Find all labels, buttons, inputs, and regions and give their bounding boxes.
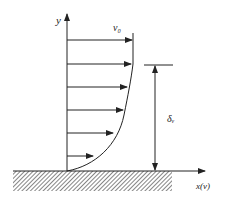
x-axis-label: x(v) — [195, 181, 210, 191]
boundary-layer-diagram: y v₀ δᵥ x(v) — [0, 0, 229, 205]
thickness-label: δᵥ — [167, 113, 175, 124]
velocity-arrows — [67, 40, 132, 156]
y-axis-label: y — [55, 14, 61, 26]
wall-surface — [13, 171, 172, 191]
free-stream-velocity-label: v₀ — [113, 22, 121, 33]
velocity-profile-curve — [67, 64, 133, 171]
